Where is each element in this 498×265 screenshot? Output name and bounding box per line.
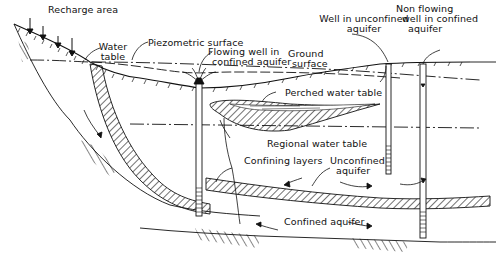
unconfined-well	[386, 64, 391, 174]
label-ground-surface: Ground surface	[288, 49, 328, 69]
label-recharge-area: Recharge area	[48, 5, 118, 15]
label-water-table-line2: table	[96, 52, 130, 62]
label-nonflowing-well-line3: aquifer	[396, 24, 478, 34]
label-regional-water-table: Regional water table	[267, 139, 367, 149]
recharge-arrows	[27, 18, 75, 56]
label-perched-water-table: Perched water table	[285, 88, 382, 98]
label-nonflowing-well: Non flowing well in confined aquifer	[396, 4, 478, 34]
aquifer-diagram: Recharge area Water table Piezometric su…	[0, 0, 498, 265]
label-water-table: Water table	[96, 42, 130, 62]
flowing-well	[182, 68, 216, 216]
label-flowing-well: Flowing well in confined aquifer	[208, 47, 291, 67]
label-unconfined-aquifer-line2: aquifer	[330, 166, 385, 176]
lower-confining-layer	[206, 178, 490, 209]
label-confining-layers: Confining layers	[244, 156, 323, 166]
nonflowing-well	[420, 64, 426, 238]
label-confined-aquifer: Confined aquifer	[284, 217, 365, 227]
aquifer-cross-section-drawing	[0, 0, 498, 265]
label-flowing-well-line2: confined aquifer	[208, 57, 291, 67]
bottom-boundary	[140, 228, 496, 242]
label-ground-surface-line2: surface	[288, 59, 328, 69]
label-unconfined-aquifer: Unconfined aquifer	[330, 156, 385, 176]
